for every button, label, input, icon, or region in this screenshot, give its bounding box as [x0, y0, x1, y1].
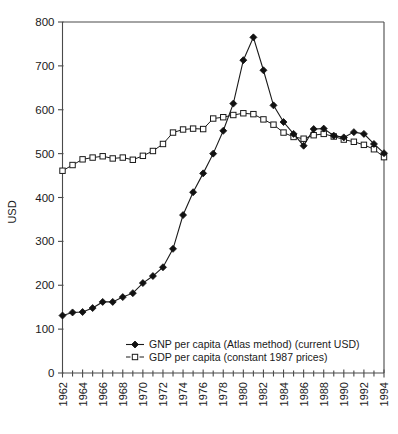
- x-tick-label: 1968: [117, 382, 129, 406]
- data-point-marker: [109, 298, 116, 305]
- y-tick-label: 400: [35, 192, 54, 204]
- data-point-marker: [60, 168, 65, 173]
- data-point-marker: [251, 111, 256, 116]
- data-point-marker: [160, 141, 165, 146]
- data-point-marker: [170, 130, 175, 135]
- legend-label: GDP per capita (constant 1987 prices): [149, 351, 327, 363]
- y-tick-label: 500: [35, 148, 54, 160]
- y-tick-labels: 0100200300400500600700800: [35, 16, 54, 379]
- data-point-marker: [180, 127, 185, 132]
- x-tick-label: 1988: [318, 382, 330, 406]
- data-point-marker: [350, 129, 357, 136]
- data-point-marker: [130, 157, 135, 162]
- data-point-marker: [89, 305, 96, 312]
- data-point-marker: [221, 115, 226, 120]
- data-point-marker: [200, 126, 205, 131]
- data-point-marker: [271, 122, 276, 127]
- x-tick-label: 1986: [298, 382, 310, 406]
- y-tick-label: 700: [35, 60, 54, 72]
- data-point-marker: [170, 245, 177, 252]
- data-point-marker: [69, 309, 76, 316]
- y-tick-label: 0: [48, 367, 54, 379]
- data-point-marker: [241, 111, 246, 116]
- x-tick-label: 1980: [237, 382, 249, 406]
- y-tick-label: 600: [35, 104, 54, 116]
- x-tick-label: 1974: [177, 382, 189, 406]
- data-point-marker: [210, 150, 217, 157]
- data-point-marker: [240, 57, 247, 64]
- line-chart: USD 0100200300400500600700800 1962196419…: [0, 0, 398, 434]
- data-point-marker: [100, 154, 105, 159]
- data-point-marker: [70, 162, 75, 167]
- data-point-marker: [270, 102, 277, 109]
- x-tick-label: 1966: [97, 382, 109, 406]
- data-point-marker: [190, 126, 195, 131]
- data-point-marker: [80, 157, 85, 162]
- x-tick-label: 1970: [137, 382, 149, 406]
- data-point-marker: [180, 212, 187, 219]
- data-point-marker: [79, 309, 86, 316]
- series-line: [63, 37, 385, 315]
- y-tick-label: 800: [35, 16, 54, 28]
- data-point-marker: [361, 142, 366, 147]
- x-tick-labels: 1962196419661968197019721974197619781980…: [57, 382, 391, 406]
- data-point-marker: [261, 117, 266, 122]
- data-point-marker: [190, 189, 197, 196]
- data-point-marker: [230, 100, 237, 107]
- x-tick-label: 1964: [77, 382, 89, 406]
- y-tick-label: 200: [35, 279, 54, 291]
- data-point-marker: [310, 126, 317, 133]
- legend-marker-filled-diamond-icon: [132, 341, 139, 348]
- y-axis-label: USD: [6, 200, 18, 223]
- series-line: [63, 113, 385, 170]
- y-tick-label: 300: [35, 235, 54, 247]
- x-tick-label: 1984: [278, 382, 290, 406]
- data-point-marker: [140, 153, 145, 158]
- x-tick-label: 1962: [57, 382, 69, 406]
- chart-legend: GNP per capita (Atlas method) (current U…: [126, 338, 359, 363]
- data-point-marker: [200, 170, 207, 177]
- chart-container: USD 0100200300400500600700800 1962196419…: [0, 0, 398, 434]
- x-tick-label: 1994: [378, 382, 390, 406]
- series-gdp-per-capita: [60, 111, 387, 174]
- data-point-marker: [351, 139, 356, 144]
- axis-lines: [63, 22, 385, 373]
- x-tick-label: 1992: [358, 382, 370, 406]
- data-point-marker: [301, 136, 306, 141]
- data-point-marker: [220, 127, 227, 134]
- data-point-marker: [281, 130, 286, 135]
- data-point-marker: [231, 112, 236, 117]
- data-point-marker: [110, 156, 115, 161]
- x-tick-label: 1990: [338, 382, 350, 406]
- series-gnp-per-capita: [59, 34, 388, 319]
- data-point-marker: [99, 298, 106, 305]
- x-tick-label: 1982: [257, 382, 269, 406]
- data-point-marker: [59, 312, 66, 319]
- x-tick-label: 1976: [197, 382, 209, 406]
- x-tick-label: 1978: [217, 382, 229, 406]
- legend-item: GDP per capita (constant 1987 prices): [126, 351, 327, 363]
- legend-item: GNP per capita (Atlas method) (current U…: [126, 338, 359, 350]
- data-point-marker: [250, 34, 257, 41]
- data-point-marker: [260, 67, 267, 74]
- y-tick-label: 100: [35, 323, 54, 335]
- data-point-marker: [120, 155, 125, 160]
- legend-label: GNP per capita (Atlas method) (current U…: [149, 338, 359, 350]
- data-point-marker: [150, 148, 155, 153]
- data-point-marker: [211, 116, 216, 121]
- y-axis-label-group: USD: [6, 200, 18, 223]
- data-point-marker: [90, 155, 95, 160]
- legend-marker-open-square-icon: [132, 354, 137, 359]
- data-point-marker: [119, 294, 126, 301]
- x-tick-label: 1972: [157, 382, 169, 406]
- data-point-marker: [311, 133, 316, 138]
